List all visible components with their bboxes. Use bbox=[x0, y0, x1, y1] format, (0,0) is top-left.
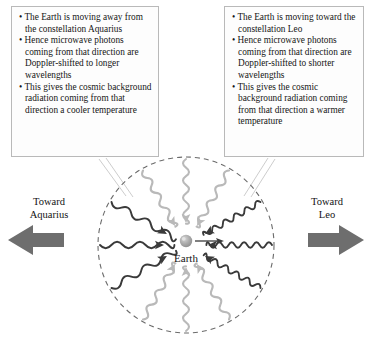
earth-label: Earth bbox=[174, 252, 198, 264]
figure-canvas: • The Earth is moving away from the cons… bbox=[0, 0, 372, 349]
leader-line-left bbox=[99, 159, 126, 196]
direction-label-leo: Toward Leo bbox=[288, 196, 366, 221]
wave-sse bbox=[193, 261, 233, 322]
wave-w bbox=[100, 241, 174, 249]
earth-group bbox=[180, 235, 224, 247]
wave-e bbox=[206, 241, 272, 249]
leader-line-right bbox=[251, 159, 275, 197]
callout-leo-line-1: • The Earth is moving toward the constel… bbox=[232, 12, 357, 35]
wave-ssw bbox=[139, 261, 179, 322]
callout-aquarius-line-2: • Hence microwave photons coming from th… bbox=[19, 35, 152, 81]
callout-aquarius: • The Earth is moving away from the cons… bbox=[11, 6, 159, 157]
callout-aquarius-line-3: • This gives the cosmic background radia… bbox=[19, 82, 152, 117]
wave-nnw bbox=[139, 168, 179, 229]
direction-label-aquarius-line1: Toward bbox=[6, 196, 92, 209]
callout-aquarius-line-1: • The Earth is moving away from the cons… bbox=[19, 12, 152, 35]
wave-n bbox=[182, 159, 191, 224]
direction-label-leo-line2: Leo bbox=[288, 209, 366, 222]
callout-leo-line-2: • Hence microwave photons coming from th… bbox=[232, 35, 357, 81]
wave-s bbox=[182, 266, 191, 331]
toward-leo-arrow bbox=[308, 225, 364, 255]
direction-label-aquarius-line2: Aquarius bbox=[6, 209, 92, 222]
leader-line-right-2 bbox=[244, 158, 268, 196]
earth-sphere-highlight bbox=[182, 237, 186, 241]
toward-aquarius-arrow bbox=[8, 225, 64, 255]
earth-sphere bbox=[180, 235, 192, 247]
callout-leo-line-3: • This gives the cosmic background radia… bbox=[232, 82, 357, 128]
direction-label-leo-line1: Toward bbox=[288, 196, 366, 209]
wave-ese bbox=[202, 252, 263, 292]
direction-label-aquarius: Toward Aquarius bbox=[6, 196, 92, 221]
wave-ene bbox=[202, 198, 263, 238]
callout-leo: • The Earth is moving toward the constel… bbox=[224, 6, 364, 157]
